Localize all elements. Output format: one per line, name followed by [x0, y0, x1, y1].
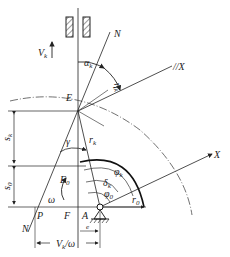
line-E-down-right	[78, 111, 104, 126]
label-P: P	[36, 210, 43, 221]
label-s0: s0	[1, 182, 14, 190]
line-E-right	[78, 90, 108, 111]
label-E0: E0	[59, 174, 70, 187]
label-vk-omega: Vk/ω	[56, 238, 75, 251]
cam-diagram: Vk N αk ηk //X E sk s0 γ rk φk δk φ0 X E…	[0, 0, 230, 257]
label-vk: Vk	[38, 47, 48, 60]
label-E: E	[65, 92, 72, 103]
label-omega: ω	[48, 194, 55, 205]
label-parallel-x: //X	[172, 61, 186, 72]
label-r0: r0	[132, 194, 140, 207]
label-phi-0: φ0	[104, 188, 114, 201]
label-sk: sk	[1, 133, 14, 141]
diagram-canvas: Vk N αk ηk //X E sk s0 γ rk φk δk φ0 X E…	[0, 0, 230, 257]
label-X: X	[213, 149, 221, 160]
label-e: e	[86, 223, 89, 231]
label-F: F	[63, 210, 71, 221]
arc-gamma	[60, 148, 86, 152]
label-n-top: N	[113, 28, 122, 39]
pitch-arc	[10, 97, 192, 215]
label-n-bottom: N	[21, 223, 30, 234]
normal-line	[28, 32, 110, 232]
label-A: A	[81, 210, 89, 221]
arc-delta-k	[86, 180, 118, 192]
label-alpha-k: αk	[84, 57, 93, 70]
x-axis	[100, 154, 212, 207]
label-gamma: γ	[66, 136, 71, 147]
label-rk: rk	[89, 134, 97, 147]
